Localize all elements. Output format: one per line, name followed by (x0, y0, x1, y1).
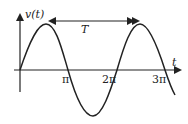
tick-2pi: 2π (102, 74, 116, 85)
period-label: T (81, 24, 88, 35)
tick-3pi: 3π (152, 74, 166, 85)
x-axis-label: t (172, 57, 176, 68)
y-axis-label: v(t) (25, 9, 44, 20)
tick-pi: π (62, 74, 69, 85)
